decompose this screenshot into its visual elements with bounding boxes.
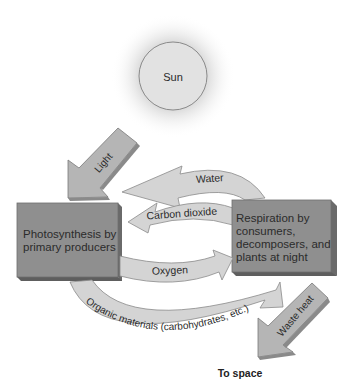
- photosynthesis-line-2: primary producers: [23, 241, 118, 254]
- svg-text:Water: Water: [196, 171, 225, 185]
- energy-flow-diagram: Sun Light Water Carbon dioxide Oxygen Or…: [0, 0, 358, 387]
- respiration-line-2: consumers,: [236, 225, 331, 238]
- photosynthesis-line-1: Photosynthesis by: [23, 228, 118, 241]
- photosynthesis-label: Photosynthesis by primary producers: [23, 228, 118, 254]
- carbon-dioxide-arrow: Carbon dioxide: [128, 203, 233, 233]
- to-space-label: To space: [218, 367, 263, 379]
- respiration-label: Respiration by consumers, decomposers, a…: [236, 212, 331, 264]
- sun-label: Sun: [163, 71, 183, 83]
- organic-materials-arrow: Organic materials (carbohydrates, etc.): [70, 280, 283, 332]
- svg-text:Oxygen: Oxygen: [152, 263, 189, 276]
- respiration-line-4: plants at night: [236, 251, 331, 264]
- sun: Sun: [111, 14, 235, 138]
- diagram-canvas: Sun Light Water Carbon dioxide Oxygen Or…: [0, 0, 358, 387]
- oxygen-arrow: Oxygen: [120, 250, 233, 282]
- respiration-line-3: decomposers, and: [236, 238, 331, 251]
- respiration-line-1: Respiration by: [236, 212, 331, 225]
